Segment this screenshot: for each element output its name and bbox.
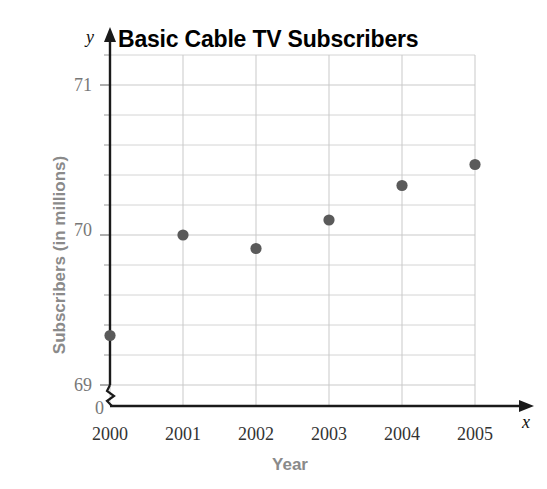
data-point-2004 (396, 180, 407, 191)
data-point-2000 (104, 330, 115, 341)
data-point-2002 (250, 243, 261, 254)
horizontal-gridlines (110, 55, 475, 385)
plot-area (0, 0, 547, 489)
y-axis-arrow-icon (104, 27, 116, 42)
data-point-2003 (323, 214, 334, 225)
data-point-2005 (469, 159, 480, 170)
data-point-2001 (177, 229, 188, 240)
chart-container: Basic Cable TV Subscribers Subscribers (… (0, 0, 547, 489)
x-axis-arrow-icon (519, 400, 534, 412)
vertical-gridlines (110, 55, 475, 406)
data-point-group (104, 159, 480, 341)
